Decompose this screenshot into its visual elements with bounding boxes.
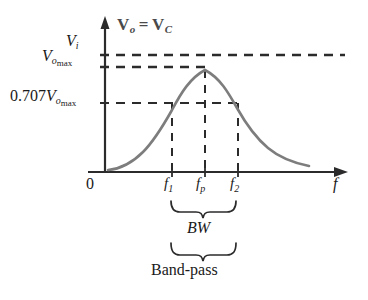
chart-title-equals: =: [136, 15, 152, 34]
x-tick-label-fp: fp: [196, 176, 205, 194]
chart-title: Vo=VC: [117, 16, 173, 35]
x-tick-f1-sub: 1: [168, 183, 173, 194]
chart-title-v1: V: [117, 15, 130, 34]
bandwidth-label: BW: [187, 220, 210, 236]
y-label-vi-sub: i: [76, 40, 79, 51]
chart-title-sub2: C: [165, 23, 173, 35]
y-label-vomax-sub-max: max: [57, 58, 73, 68]
brace-bandwidth: [171, 201, 236, 218]
x-axis-label: f: [333, 176, 337, 192]
y-label-vomax: Vomax: [42, 48, 72, 68]
x-axis: [88, 167, 348, 177]
plot-canvas: [0, 0, 368, 300]
y-label-0707vomax: 0.707Vomax: [10, 88, 76, 108]
brace-bandpass: [171, 243, 236, 261]
axis-origin-label: 0: [86, 176, 94, 192]
chart-title-v2: V: [152, 15, 165, 34]
chart-title-sub1: o: [130, 23, 136, 35]
y-axis: [101, 16, 110, 172]
y-label-0707-prefix: 0.707: [10, 87, 46, 104]
y-label-vi-main: V: [66, 32, 76, 49]
y-label-0707-sub-max: max: [61, 98, 77, 108]
y-label-0707-main: V: [46, 87, 56, 104]
x-tick-f2-sub: 2: [234, 183, 239, 194]
x-tick-label-f2: f2: [230, 176, 239, 194]
band-pass-response-figure: Vo=VC Vi Vomax 0.707Vomax 0 f f1 fp f2 B…: [0, 0, 368, 300]
y-label-vomax-main: V: [42, 47, 52, 64]
x-tick-label-f1: f1: [164, 176, 173, 194]
response-curve: [108, 70, 309, 170]
x-tick-fp-sub: p: [200, 183, 205, 194]
figure-caption: Band-pass: [151, 262, 218, 278]
